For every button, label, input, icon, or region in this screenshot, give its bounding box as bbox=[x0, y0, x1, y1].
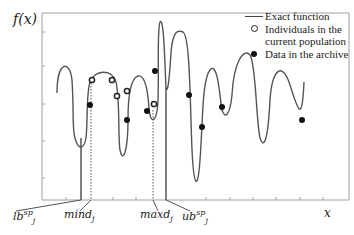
legend-exact-function: Exact function bbox=[243, 10, 348, 23]
archive-point bbox=[186, 92, 192, 98]
open-circle-icon bbox=[243, 25, 265, 32]
individual-point bbox=[89, 77, 94, 82]
archive-point bbox=[219, 104, 225, 110]
mind-label: mindj bbox=[64, 208, 95, 223]
legend: Exact function Individuals in the curren… bbox=[243, 10, 348, 60]
individual-point bbox=[124, 88, 129, 93]
individual-point bbox=[151, 101, 156, 106]
archive-point bbox=[152, 68, 158, 74]
lb-label: lbspj bbox=[13, 208, 35, 225]
filled-circle-icon bbox=[243, 51, 265, 57]
legend-individuals-cont: current population bbox=[243, 35, 348, 48]
legend-archive: Data in the archive bbox=[243, 48, 348, 61]
bound-lines bbox=[81, 80, 166, 200]
line-icon bbox=[243, 16, 265, 17]
y-axis-label: f(x) bbox=[13, 11, 37, 27]
archive-point bbox=[124, 117, 130, 123]
individual-point bbox=[109, 77, 114, 82]
ub-label: ubspj bbox=[182, 208, 208, 225]
archive-point bbox=[144, 108, 150, 114]
archive-point bbox=[199, 124, 205, 130]
maxd-label: maxdj bbox=[140, 208, 173, 223]
individual-point bbox=[114, 93, 119, 98]
individuals-points bbox=[89, 77, 156, 106]
archive-point bbox=[87, 102, 93, 108]
x-axis-label: x bbox=[324, 206, 331, 220]
archive-points bbox=[87, 68, 305, 130]
archive-point bbox=[299, 117, 305, 123]
legend-individuals: Individuals in the bbox=[243, 23, 348, 36]
